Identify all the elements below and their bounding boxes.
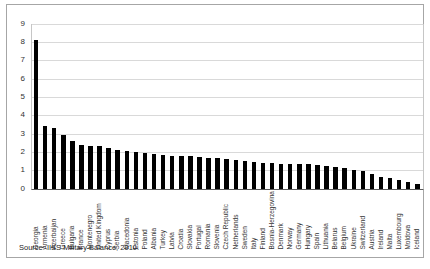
x-label-slot: Bosnia-Herzegovina — [268, 191, 277, 250]
bar — [97, 146, 102, 188]
x-label-slot: Germany — [295, 191, 304, 250]
bar — [125, 151, 130, 189]
y-tick-label: 7 — [21, 55, 25, 65]
x-tick-label: Portugal — [196, 191, 203, 250]
x-label-slot: Slovenia — [213, 191, 222, 250]
bar — [361, 171, 366, 188]
x-label-slot: Albania — [150, 191, 159, 250]
x-label-slot: Belarus — [331, 191, 340, 250]
bar — [179, 156, 184, 188]
x-tick-label: Azerbaijan — [51, 191, 58, 250]
x-tick-label: Spain — [314, 191, 321, 250]
x-label-slot: Croatia — [177, 191, 186, 250]
y-tick-label: 0 — [21, 184, 25, 194]
y-tick-label: 4 — [21, 110, 25, 120]
x-tick-label: Norway — [287, 191, 294, 250]
chart-figure: 0123456789 GeorgiaArmeniaAzerbaijanGreec… — [6, 4, 424, 258]
bar — [252, 162, 257, 189]
bar — [297, 164, 302, 189]
x-label-slot: Ukraine — [349, 191, 358, 250]
bar — [143, 153, 148, 189]
x-tick-label: Italy — [251, 191, 258, 250]
bar — [261, 163, 266, 189]
x-tick-label: Bulgaria — [69, 191, 76, 250]
x-label-slot: Hungary — [304, 191, 313, 250]
x-tick-label: France — [78, 191, 85, 250]
x-label-slot: Netherlands — [231, 191, 240, 250]
x-tick-label: Moldova — [405, 191, 412, 250]
x-label-slot: Czech Republic — [222, 191, 231, 250]
x-tick-label: Greece — [60, 191, 67, 250]
x-label-slot: Belgium — [340, 191, 349, 250]
bar — [243, 161, 248, 189]
x-tick-label: Cyprus — [105, 191, 112, 250]
x-label-slot: Montenegro — [86, 191, 95, 250]
x-label-slot: Denmark — [277, 191, 286, 250]
x-label-slot: Malta — [386, 191, 395, 250]
x-tick-label: Sweden — [242, 191, 249, 250]
bar — [388, 178, 393, 189]
x-tick-label: Austria — [369, 191, 376, 250]
x-label-slot: Italy — [249, 191, 258, 250]
bar — [288, 164, 293, 189]
x-tick-label: Macedonia — [124, 191, 131, 250]
x-label-slot: Cyprus — [104, 191, 113, 250]
bar — [170, 156, 175, 189]
bar — [88, 146, 93, 188]
bar-series — [32, 24, 423, 189]
x-tick-label: Armenia — [42, 191, 49, 250]
x-label-slot: Luxembourg — [395, 191, 404, 250]
bar — [215, 158, 220, 188]
bar — [52, 128, 57, 189]
x-tick-label: Germany — [296, 191, 303, 250]
bar — [370, 174, 375, 189]
x-label-slot: Latvia — [168, 191, 177, 250]
bar — [206, 158, 211, 188]
x-tick-label: Albania — [151, 191, 158, 250]
bar — [324, 166, 329, 189]
bar — [61, 135, 66, 188]
x-label-slot: Sweden — [240, 191, 249, 250]
source-note: Source: IISS Military Balance, 2010. — [19, 243, 139, 252]
x-label-slot: France — [77, 191, 86, 250]
x-label-slot: Romania — [204, 191, 213, 250]
bar — [270, 163, 275, 189]
x-label-slot: Azerbaijan — [50, 191, 59, 250]
x-tick-label: United Kingdom — [96, 191, 103, 250]
x-tick-label: Latvia — [169, 191, 176, 250]
plot-area: GeorgiaArmeniaAzerbaijanGreeceBulgariaFr… — [31, 24, 424, 190]
bar — [406, 182, 411, 188]
x-label-slot: Spain — [313, 191, 322, 250]
x-tick-label: Ireland — [378, 191, 385, 250]
y-tick-label: 9 — [21, 19, 25, 29]
bar — [34, 40, 39, 189]
bar — [342, 168, 347, 188]
x-label-slot: Norway — [286, 191, 295, 250]
x-tick-label: Estonia — [133, 191, 140, 250]
y-tick-label: 5 — [21, 92, 25, 102]
bar — [315, 165, 320, 189]
bar — [379, 177, 384, 189]
x-label-slot: Finland — [258, 191, 267, 250]
x-label-slot: Austria — [367, 191, 376, 250]
x-label-slot: Bulgaria — [68, 191, 77, 250]
bar — [106, 148, 111, 188]
x-label-slot: Switzerland — [358, 191, 367, 250]
x-tick-label: Netherlands — [233, 191, 240, 250]
x-tick-label: Slovakia — [187, 191, 194, 250]
x-tick-label: Luxembourg — [396, 191, 403, 250]
bar — [152, 154, 157, 189]
x-axis-labels: GeorgiaArmeniaAzerbaijanGreeceBulgariaFr… — [32, 191, 423, 250]
x-label-slot: United Kingdom — [95, 191, 104, 250]
x-label-slot: Serbia — [113, 191, 122, 250]
x-tick-label: Montenegro — [87, 191, 94, 250]
bar — [79, 145, 84, 188]
bar — [415, 184, 420, 189]
x-tick-label: Belarus — [332, 191, 339, 250]
x-tick-label: Belgium — [341, 191, 348, 250]
bar — [161, 155, 166, 189]
bar — [134, 152, 139, 189]
x-tick-label: Georgia — [33, 191, 40, 250]
x-label-slot: Georgia — [32, 191, 41, 250]
y-tick-label: 6 — [21, 74, 25, 84]
